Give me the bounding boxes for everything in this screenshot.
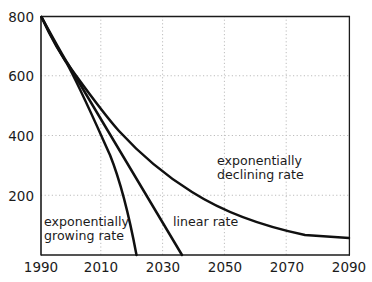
annotation-growing-line2: growing rate <box>44 229 129 243</box>
annotation-declining-line2: declining rate <box>217 168 304 182</box>
chart-container: 800 600 400 200 1990 2010 2030 2050 2070… <box>0 0 372 282</box>
curve-exponentially-declining-rate <box>42 17 350 238</box>
annotation-growing-line1: exponentially <box>44 215 129 229</box>
annotation-exponentially-growing-rate: exponentially growing rate <box>44 215 129 242</box>
x-axis-tick-2090: 2090 <box>322 259 372 275</box>
annotation-declining-line1: exponentially <box>217 154 304 168</box>
annotation-exponentially-declining-rate: exponentially declining rate <box>217 154 304 181</box>
x-axis-tick-2030: 2030 <box>136 259 190 275</box>
y-axis-tick-800: 800 <box>0 9 34 25</box>
y-axis-tick-200: 200 <box>0 188 34 204</box>
annotation-linear-rate: linear rate <box>173 215 238 229</box>
x-axis-tick-2010: 2010 <box>74 259 128 275</box>
y-axis-tick-600: 600 <box>0 68 34 84</box>
x-axis-tick-2070: 2070 <box>260 259 314 275</box>
x-axis-tick-1990: 1990 <box>14 259 68 275</box>
x-axis-tick-2050: 2050 <box>198 259 252 275</box>
y-axis-tick-400: 400 <box>0 128 34 144</box>
